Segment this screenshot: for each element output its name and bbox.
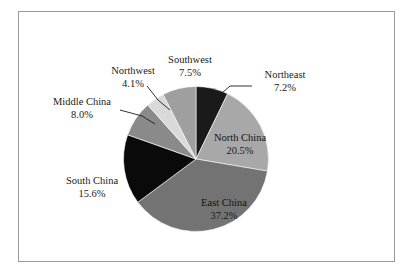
pie-slices <box>123 87 268 232</box>
slice-label-middle-china-value: 8.0% <box>71 109 93 120</box>
pie-chart-figure: Northeast 7.2% Southwest 7.5% Northwest … <box>0 0 415 275</box>
slice-label-middle-china-name: Middle China <box>53 96 111 107</box>
slice-label-south-china: South China 15.6% <box>66 175 119 199</box>
slice-label-north-china-value: 20.5% <box>226 145 253 156</box>
slice-label-northwest-value: 4.1% <box>122 78 144 89</box>
slice-label-southwest-value: 7.5% <box>179 67 201 78</box>
pie-chart-canvas: Northeast 7.2% Southwest 7.5% Northwest … <box>0 0 415 275</box>
slice-label-northwest: Northwest 4.1% <box>111 65 155 89</box>
slice-label-northeast-value: 7.2% <box>274 82 296 93</box>
slice-label-north-china-name: North China <box>214 132 267 143</box>
slice-label-northeast-name: Northeast <box>265 69 306 80</box>
slice-label-southwest-name: Southwest <box>168 54 212 65</box>
slice-label-south-china-name: South China <box>66 175 119 186</box>
slice-label-southwest: Southwest 7.5% <box>168 54 212 78</box>
slice-label-east-china-value: 37.2% <box>210 210 237 221</box>
slice-label-northeast: Northeast 7.2% <box>265 69 306 93</box>
slice-label-middle-china: Middle China 8.0% <box>53 96 111 120</box>
slice-label-south-china-value: 15.6% <box>78 188 105 199</box>
slice-label-east-china-name: East China <box>201 197 247 208</box>
slice-label-northwest-name: Northwest <box>111 65 155 76</box>
